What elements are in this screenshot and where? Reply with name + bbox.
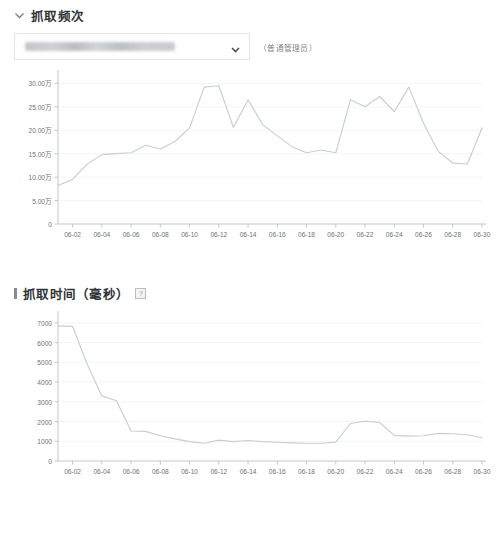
question-mark-icon[interactable]: ? bbox=[135, 288, 146, 299]
x-axis-tick-label: 06-06 bbox=[123, 231, 140, 238]
x-axis-tick-label: 06-02 bbox=[64, 468, 81, 475]
x-axis-tick-label: 06-20 bbox=[327, 468, 344, 475]
y-axis-tick-label: 6000 bbox=[37, 340, 52, 347]
vertical-bar-icon bbox=[14, 288, 17, 299]
x-axis-tick-label: 06-06 bbox=[123, 468, 140, 475]
x-axis-tick-label: 06-28 bbox=[444, 231, 461, 238]
section-header-crawl-time: 抓取时间（毫秒） ? bbox=[0, 278, 496, 303]
x-axis-tick-label: 06-08 bbox=[152, 468, 169, 475]
y-axis-tick-label: 5.00万 bbox=[32, 198, 52, 206]
x-axis-tick-label: 06-18 bbox=[298, 231, 315, 238]
y-axis-tick-label: 2000 bbox=[37, 419, 52, 426]
x-axis-tick-label: 06-26 bbox=[415, 468, 432, 475]
y-axis-tick-label: 4000 bbox=[37, 379, 52, 386]
crawl-frequency-section: 抓取频次 （普通管理员） 30.00万25.00万20.00万15.00万10.… bbox=[0, 0, 496, 260]
y-axis-tick-label: 30.00万 bbox=[28, 80, 52, 88]
page-title: 抓取频次 bbox=[31, 6, 84, 25]
x-axis-tick-label: 06-08 bbox=[152, 231, 169, 238]
x-axis-tick-label: 06-30 bbox=[474, 468, 491, 475]
x-axis-tick-label: 06-18 bbox=[298, 468, 315, 475]
section-header-crawl-frequency: 抓取频次 bbox=[0, 0, 496, 25]
y-axis-tick-label: 25.00万 bbox=[28, 104, 52, 112]
y-axis-tick-label: 0 bbox=[48, 221, 52, 228]
y-axis-tick-label: 0 bbox=[48, 458, 52, 465]
y-axis-tick-label: 15.00万 bbox=[28, 151, 52, 159]
y-axis-tick-label: 10.00万 bbox=[28, 174, 52, 182]
x-axis-tick-label: 06-24 bbox=[386, 468, 403, 475]
x-axis-tick-label: 06-20 bbox=[327, 231, 344, 238]
x-axis-tick-label: 06-12 bbox=[210, 231, 227, 238]
x-axis-tick-label: 06-28 bbox=[444, 468, 461, 475]
chevron-down-icon[interactable] bbox=[14, 10, 25, 21]
x-axis-tick-label: 06-24 bbox=[386, 231, 403, 238]
chart-series-line bbox=[58, 326, 482, 443]
x-axis-tick-label: 06-22 bbox=[357, 231, 374, 238]
y-axis-tick-label: 3000 bbox=[37, 399, 52, 406]
x-axis-tick-label: 06-14 bbox=[240, 231, 257, 238]
site-select-value bbox=[25, 42, 175, 51]
x-axis-tick-label: 06-02 bbox=[64, 231, 81, 238]
y-axis-tick-label: 1000 bbox=[37, 438, 52, 445]
x-axis-tick-label: 06-04 bbox=[93, 468, 110, 475]
crawl-time-chart: 7000600050004000300020001000006-0206-040… bbox=[0, 303, 496, 498]
y-axis-tick-label: 7000 bbox=[37, 320, 52, 327]
chart-series-line bbox=[58, 86, 482, 186]
chevron-down-icon[interactable] bbox=[230, 41, 241, 52]
x-axis-tick-label: 06-16 bbox=[269, 231, 286, 238]
x-axis-tick-label: 06-04 bbox=[93, 231, 110, 238]
x-axis-tick-label: 06-10 bbox=[181, 468, 198, 475]
crawl-time-section: 抓取时间（毫秒） ? 70006000500040003000200010000… bbox=[0, 278, 496, 498]
y-axis-tick-label: 5000 bbox=[37, 359, 52, 366]
x-axis-tick-label: 06-10 bbox=[181, 231, 198, 238]
x-axis-tick-label: 06-12 bbox=[210, 468, 227, 475]
crawl-frequency-chart: 30.00万25.00万20.00万15.00万10.00万5.00万006-0… bbox=[0, 60, 496, 260]
x-axis-tick-label: 06-16 bbox=[269, 468, 286, 475]
site-select[interactable] bbox=[14, 33, 250, 60]
role-label: （普通管理员） bbox=[259, 41, 317, 52]
x-axis-tick-label: 06-26 bbox=[415, 231, 432, 238]
section-title-crawl-time: 抓取时间（毫秒） bbox=[23, 284, 129, 303]
x-axis-tick-label: 06-22 bbox=[357, 468, 374, 475]
site-selector-row: （普通管理员） bbox=[0, 25, 496, 60]
y-axis-tick-label: 20.00万 bbox=[28, 127, 52, 135]
x-axis-tick-label: 06-30 bbox=[474, 231, 491, 238]
x-axis-tick-label: 06-14 bbox=[240, 468, 257, 475]
